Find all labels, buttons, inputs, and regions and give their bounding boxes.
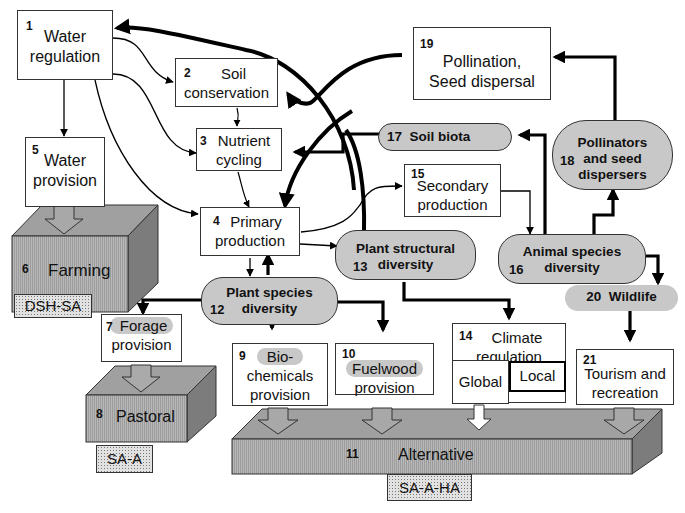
node-label-line2: conservation [176, 83, 277, 102]
node-number: 10 [342, 345, 355, 364]
node-label-line1: Plant structural [336, 241, 475, 257]
node-label-line1: Forage [110, 317, 174, 334]
alternative-label: Alternative [398, 446, 474, 464]
climate-global-cell: Global [452, 360, 509, 404]
node-number: 18 [560, 153, 574, 169]
node-number: 19 [420, 34, 433, 54]
node-label-line1: Fuelwood [346, 360, 423, 377]
node-water-regulation: 1 Water regulation [17, 10, 113, 80]
node-number: 3 [200, 132, 207, 151]
node-number: 11 [346, 447, 359, 461]
node-label: Soil biota [410, 129, 471, 144]
node-label-line2: cycling [197, 150, 281, 169]
farming-label: Farming [48, 261, 110, 281]
node-label-line3: provision [233, 385, 327, 404]
node-label-line2: production [201, 231, 299, 250]
node-plant-species-diversity: 12 Plant species diversity [201, 277, 338, 325]
node-number: 6 [22, 262, 29, 276]
node-label-line1: Bio- [257, 348, 304, 365]
climate-local-cell: Local [509, 361, 566, 392]
node-tourism-recreation: 21 Tourism and recreation [576, 349, 674, 405]
node-biochemicals-provision: 9 Bio- chemicals provision [232, 343, 328, 406]
node-number: 5 [32, 140, 39, 160]
node-label-line1: Soil [176, 64, 277, 83]
pastoral-label: Pastoral [116, 408, 175, 426]
node-number: 9 [239, 347, 246, 366]
node-nutrient-cycling: 3 Nutrient cycling [196, 128, 282, 171]
node-plant-structural-diversity: 13 Plant structural diversity [335, 230, 476, 280]
node-label-line3: dispersers [553, 167, 672, 183]
node-number: 4 [213, 212, 220, 231]
node-primary-production: 4 Primary production [200, 207, 300, 256]
node-label-line2: production [405, 195, 500, 214]
node-number: 12 [210, 302, 224, 318]
node-number: 2 [184, 64, 191, 83]
node-label-line1: Pollinators [553, 135, 672, 151]
node-forage-provision: 7 Forage provision [101, 314, 182, 362]
node-water-provision: 5 Water provision [25, 137, 105, 207]
node-animal-species-diversity: 16 Animal species diversity [498, 234, 646, 284]
node-label-line2: Seed dispersal [414, 72, 550, 92]
node-label-line2: provision [336, 378, 433, 397]
node-number: 8 [96, 407, 103, 421]
node-climate-regulation: 14 Climate regulation Global Local [452, 323, 566, 403]
node-label-line2: provision [26, 171, 104, 191]
node-number: 14 [459, 327, 472, 346]
node-soil-biota: 17 Soil biota [378, 123, 512, 151]
node-label-line2: recreation [577, 383, 673, 402]
node-label-line1: Plant species [202, 285, 337, 301]
node-number: 20 [586, 289, 601, 304]
node-soil-conservation: 2 Soil conservation [175, 58, 278, 107]
node-number: 21 [583, 351, 596, 370]
node-number: 15 [411, 165, 424, 184]
node-label: Wildlife [609, 289, 657, 304]
node-number: 1 [26, 16, 33, 36]
node-label-line1: Pollination, [414, 52, 550, 72]
node-number: 7 [106, 318, 113, 337]
node-number: 16 [509, 262, 523, 278]
node-label-line2: regulation [18, 47, 112, 67]
node-number: 17 [387, 129, 402, 144]
node-pollination-seed-dispersal: 19 Pollination, Seed dispersal [413, 27, 551, 100]
node-secondary-production: 15 Secondary production [404, 164, 501, 217]
node-fuelwood-provision: 10 Fuelwood provision [335, 343, 434, 395]
alternative-tag: SA-A-HA [387, 474, 472, 501]
node-label-line1: Animal species [499, 244, 645, 260]
node-wildlife: 20 Wildlife [565, 285, 678, 311]
node-number: 13 [353, 259, 367, 275]
pastoral-tag: SA-A [96, 445, 153, 473]
node-label-line2: provision [102, 335, 181, 354]
alternative-slab [232, 409, 662, 474]
node-pollinators-seed-dispersers: 18 Pollinators and seed dispersers [552, 120, 673, 190]
farming-tag: DSH-SA [14, 294, 92, 318]
node-label-line2: chemicals [233, 366, 327, 385]
node-label-line1: Nutrient [197, 131, 281, 150]
